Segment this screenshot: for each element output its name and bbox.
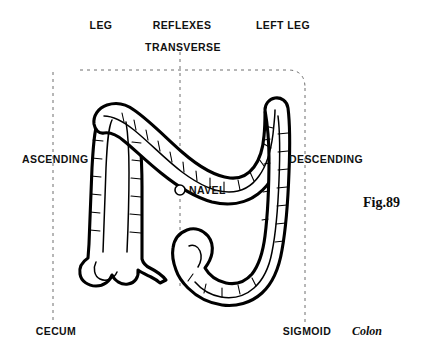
figure-canvas: LEG REFLEXES LEFT LEG TRANSVERSE ASCENDI… (0, 0, 427, 356)
navel-circle-marker (175, 185, 185, 195)
label-transverse: TRANSVERSE (145, 42, 221, 53)
label-descending: DESCENDING (289, 154, 363, 165)
label-ascending: ASCENDING (22, 154, 89, 165)
label-cecum: CECUM (36, 326, 77, 337)
label-sigmoid: SIGMOID (283, 326, 331, 337)
label-left-leg: LEFT LEG (256, 20, 310, 31)
label-leg: LEG (90, 20, 113, 31)
organ-name-caption: Colon (352, 325, 382, 337)
figure-number-caption: Fig.89 (363, 196, 400, 210)
colon-illustration (0, 0, 427, 356)
label-reflexes: REFLEXES (153, 20, 212, 31)
label-navel: NAVEL (189, 185, 226, 196)
